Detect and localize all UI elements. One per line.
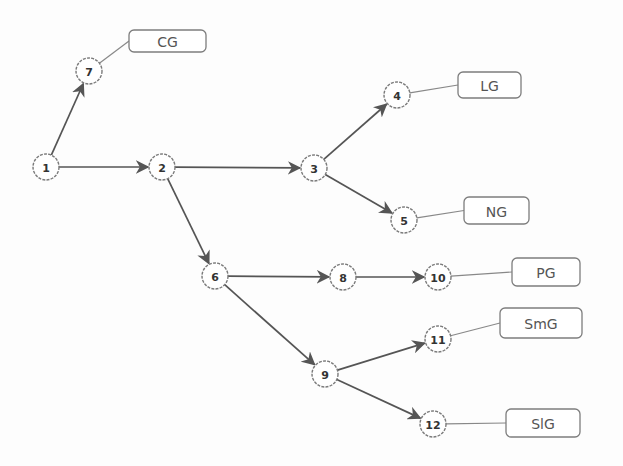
edge-9-to-12 (337, 379, 420, 418)
label-box-ng: NG (464, 197, 529, 224)
node-6: 6 (202, 263, 228, 289)
node-7: 7 (76, 58, 102, 84)
node-5: 5 (391, 207, 417, 233)
node-label: 9 (321, 369, 329, 382)
edge-2-to-6 (168, 179, 209, 264)
node-10: 10 (425, 264, 451, 290)
node-label: 5 (400, 215, 408, 228)
node-2: 2 (149, 154, 175, 180)
node-4: 4 (384, 82, 410, 108)
node-label: 8 (339, 272, 347, 285)
label-box-lg: LG (458, 72, 521, 98)
node-label: 6 (211, 271, 219, 284)
node-9: 9 (312, 361, 338, 387)
label-text: SlG (531, 416, 555, 432)
edge-9-to-11 (337, 343, 424, 370)
link-node-10-to-label (451, 272, 512, 276)
edge-1-to-7 (51, 84, 83, 155)
node-8: 8 (330, 264, 356, 290)
node-3: 3 (301, 155, 327, 181)
node-label: 4 (393, 90, 401, 103)
node-label: 3 (310, 163, 318, 176)
node-1: 1 (33, 154, 59, 180)
link-node-4-to-label (410, 85, 458, 93)
label-text: LG (480, 78, 499, 94)
node-label: 1 (42, 162, 50, 175)
edge-2-to-3 (175, 167, 300, 168)
edge-3-to-5 (325, 175, 392, 213)
label-boxes-layer: CGLGNGPGSmGSlG (129, 30, 582, 437)
label-box-smg: SmG (500, 308, 582, 338)
label-text: PG (536, 265, 555, 281)
node-label: 2 (158, 162, 166, 175)
node-label: 11 (430, 334, 445, 347)
link-node-12-to-label (446, 423, 506, 424)
link-node-7-to-label (99, 41, 129, 63)
edge-3-to-4 (324, 104, 387, 159)
node-label: 10 (430, 272, 446, 285)
nodes-layer: 123456789101112 (33, 58, 451, 437)
node-11: 11 (425, 326, 451, 352)
tree-diagram: 123456789101112 CGLGNGPGSmGSlG (0, 0, 623, 466)
edge-6-to-8 (228, 276, 329, 277)
edges-layer (51, 84, 424, 418)
node-12: 12 (420, 411, 446, 437)
label-box-slg: SlG (506, 409, 580, 437)
node-label: 12 (425, 419, 440, 432)
link-node-11-to-label (451, 323, 500, 336)
node-label: 7 (85, 66, 93, 79)
label-text: CG (157, 34, 178, 50)
label-box-cg: CG (129, 30, 206, 52)
edge-6-to-9 (225, 285, 315, 365)
label-text: NG (486, 204, 507, 220)
link-node-5-to-label (417, 211, 464, 218)
label-links-layer (99, 41, 512, 424)
diagram-canvas: 123456789101112 CGLGNGPGSmGSlG (0, 0, 623, 466)
label-box-pg: PG (512, 258, 580, 286)
label-text: SmG (524, 316, 557, 332)
